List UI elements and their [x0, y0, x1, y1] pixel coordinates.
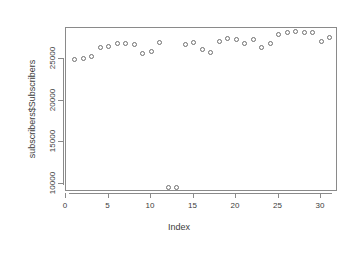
- y-axis-tick: [58, 183, 63, 184]
- data-point: [319, 39, 324, 44]
- x-axis-tick: [320, 193, 321, 198]
- data-point: [191, 40, 196, 45]
- x-axis-tick: [235, 193, 236, 198]
- y-axis-title-text: subscribers$Subscribers: [27, 60, 37, 159]
- x-axis-tick: [65, 193, 66, 198]
- data-point: [251, 37, 256, 42]
- data-point: [106, 44, 111, 49]
- data-point: [132, 42, 137, 47]
- data-point: [183, 42, 188, 47]
- x-axis-tick-label: 0: [63, 201, 67, 210]
- data-point: [217, 39, 222, 44]
- data-point: [327, 35, 332, 40]
- x-axis-tick-label: 5: [105, 201, 109, 210]
- x-axis-tick-label: 20: [231, 201, 240, 210]
- data-point: [293, 29, 298, 34]
- y-axis-tick: [58, 58, 63, 59]
- data-point: [123, 41, 128, 46]
- data-point: [72, 57, 77, 62]
- data-point: [276, 32, 281, 37]
- data-point: [81, 56, 86, 61]
- r-plot-device: subscribers$Subscribers 1000015000200002…: [0, 0, 358, 254]
- x-axis-tick-label: 10: [146, 201, 155, 210]
- y-axis-line: [63, 58, 64, 185]
- x-axis-tick: [108, 193, 109, 198]
- x-axis-tick: [150, 193, 151, 198]
- data-points-layer: [66, 28, 336, 190]
- data-point: [225, 36, 230, 41]
- screenshot-root: subscribers$Subscribers 1000015000200002…: [0, 0, 358, 254]
- x-axis-title-text: Index: [168, 222, 190, 232]
- data-point: [234, 37, 239, 42]
- data-point: [268, 41, 273, 46]
- data-point: [302, 30, 307, 35]
- x-axis-title: Index: [0, 222, 358, 232]
- x-axis-tick-label: 15: [188, 201, 197, 210]
- data-point: [259, 45, 264, 50]
- x-axis-tick-label: 25: [273, 201, 282, 210]
- data-point: [157, 40, 162, 45]
- data-point: [174, 185, 179, 190]
- data-point: [242, 41, 247, 46]
- data-point: [208, 50, 213, 55]
- plot-frame: [65, 27, 337, 191]
- data-point: [149, 49, 154, 54]
- y-axis-tick: [58, 141, 63, 142]
- data-point: [166, 185, 171, 190]
- data-point: [98, 45, 103, 50]
- x-axis-tick-label: 30: [316, 201, 325, 210]
- data-point: [200, 47, 205, 52]
- data-point: [115, 41, 120, 46]
- data-point: [89, 54, 94, 59]
- data-point: [140, 51, 145, 56]
- x-axis-tick: [193, 193, 194, 198]
- x-axis-tick: [278, 193, 279, 198]
- data-point: [310, 30, 315, 35]
- y-axis-title: subscribers$Subscribers: [26, 27, 38, 191]
- data-point: [285, 30, 290, 35]
- y-axis-tick: [58, 100, 63, 101]
